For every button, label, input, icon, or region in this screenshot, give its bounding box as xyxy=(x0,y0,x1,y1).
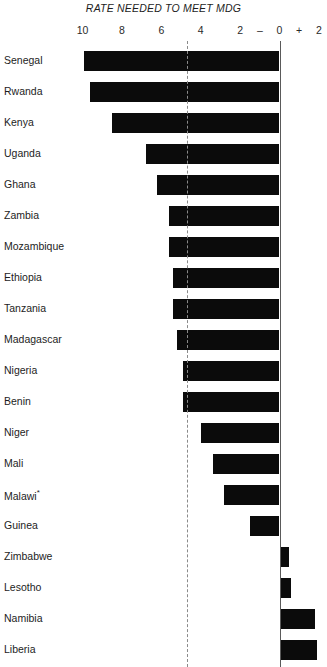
bar xyxy=(173,268,279,288)
bar xyxy=(169,206,279,226)
bar xyxy=(280,547,290,567)
bar xyxy=(183,361,280,381)
x-axis-tick: – xyxy=(257,24,263,36)
chart-row: Madagascar xyxy=(0,326,327,357)
x-axis-tick: 6 xyxy=(158,24,164,36)
bar xyxy=(280,640,317,660)
chart-row: Malawi* xyxy=(0,481,327,512)
category-label: Nigeria xyxy=(4,364,37,376)
chart-row: Guinea xyxy=(0,512,327,543)
bar xyxy=(146,144,280,164)
bar xyxy=(173,299,279,319)
category-label: Malawi* xyxy=(4,488,40,502)
chart-title: RATE NEEDED TO MEET MDG xyxy=(0,2,327,14)
category-label: Tanzania xyxy=(4,302,46,314)
zero-axis-line xyxy=(280,41,281,667)
category-label: Rwanda xyxy=(4,85,43,97)
category-label: Namibia xyxy=(4,612,43,624)
plot-area: SenegalRwandaKenyaUgandaGhanaZambiaMozam… xyxy=(0,45,327,645)
chart-row: Niger xyxy=(0,419,327,450)
x-axis-tick: 10 xyxy=(77,24,89,36)
x-axis-tick: 2 xyxy=(316,24,322,36)
bar xyxy=(177,330,279,350)
category-label: Senegal xyxy=(4,54,43,66)
chart-row: Uganda xyxy=(0,140,327,171)
category-label: Madagascar xyxy=(4,333,62,345)
category-label: Guinea xyxy=(4,519,38,531)
chart-row: Lesotho xyxy=(0,574,327,605)
x-axis-tick: 2 xyxy=(237,24,243,36)
chart-row: Liberia xyxy=(0,636,327,667)
bar xyxy=(157,175,279,195)
x-axis-tick: 0 xyxy=(277,24,283,36)
category-label: Zambia xyxy=(4,209,39,221)
chart-row: Kenya xyxy=(0,109,327,140)
category-label: Lesotho xyxy=(4,581,41,593)
chart-row: Mozambique xyxy=(0,233,327,264)
bar xyxy=(280,578,292,598)
chart-row: Senegal xyxy=(0,47,327,78)
chart-row: Ghana xyxy=(0,171,327,202)
chart-row: Zambia xyxy=(0,202,327,233)
bar xyxy=(84,51,279,71)
chart-row: Rwanda xyxy=(0,78,327,109)
chart-row: Mali xyxy=(0,450,327,481)
category-label: Kenya xyxy=(4,116,34,128)
bar xyxy=(250,516,280,536)
bar xyxy=(90,82,279,102)
bar xyxy=(183,392,280,412)
chart-row: Tanzania xyxy=(0,295,327,326)
chart-row: Benin xyxy=(0,388,327,419)
bar xyxy=(201,423,280,443)
x-axis-tick: + xyxy=(296,24,302,36)
category-label: Liberia xyxy=(4,643,36,655)
bar xyxy=(213,454,280,474)
category-label: Uganda xyxy=(4,147,41,159)
category-label: Mali xyxy=(4,457,23,469)
category-label: Zimbabwe xyxy=(4,550,52,562)
chart-row: Namibia xyxy=(0,605,327,636)
category-label: Niger xyxy=(4,426,29,438)
mdg-reference-line xyxy=(187,41,188,667)
category-label: Benin xyxy=(4,395,31,407)
chart-row: Ethiopia xyxy=(0,264,327,295)
chart-row: Zimbabwe xyxy=(0,543,327,574)
category-label: Ethiopia xyxy=(4,271,42,283)
x-axis-tick: 8 xyxy=(119,24,125,36)
x-axis: 108642–0+2 xyxy=(0,24,327,40)
bar xyxy=(280,609,315,629)
bar xyxy=(112,113,279,133)
bar xyxy=(169,237,279,257)
category-label: Mozambique xyxy=(4,240,64,252)
category-label: Ghana xyxy=(4,178,36,190)
x-axis-tick: 4 xyxy=(198,24,204,36)
chart-row: Nigeria xyxy=(0,357,327,388)
footnote-marker: * xyxy=(37,488,40,497)
bar xyxy=(224,485,279,505)
